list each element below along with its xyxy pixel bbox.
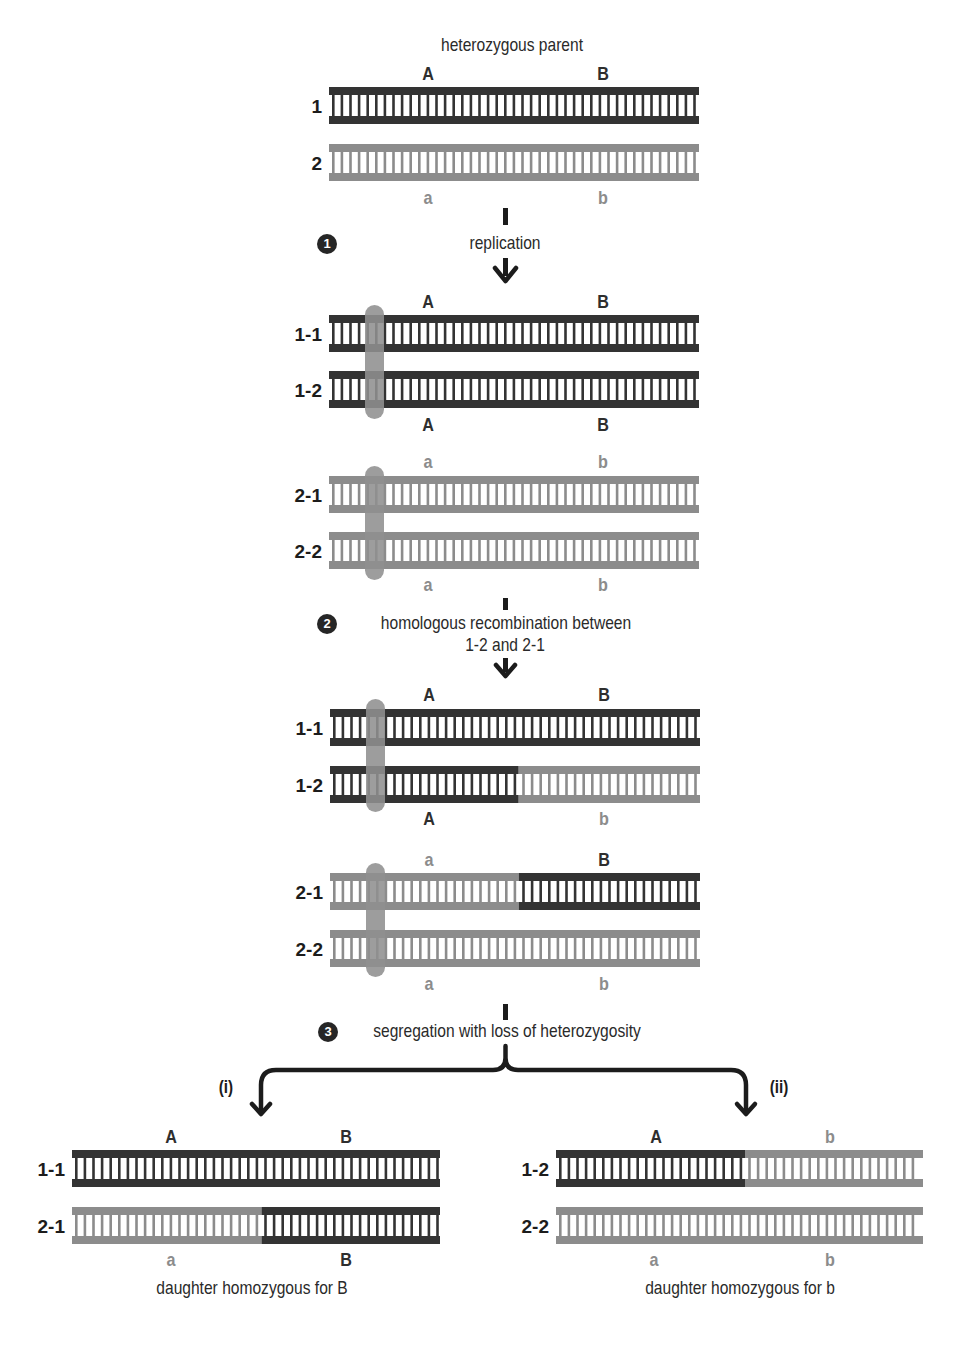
allele-label: B	[340, 1250, 352, 1269]
chromatid-label: 1	[311, 97, 322, 116]
allele-label: B	[598, 850, 610, 869]
daughter-left-title: daughter homozygous for B	[156, 1278, 347, 1297]
allele-label: A	[650, 1127, 662, 1146]
chromatid-dL-2-1	[72, 1207, 440, 1244]
chromatid-label: 2-2	[295, 542, 322, 561]
step-2-label-line1: homologous recombination between	[381, 613, 631, 632]
allele-label: a	[424, 188, 433, 207]
chromatid-rec-2-2	[330, 930, 700, 967]
allele-label: B	[597, 415, 609, 434]
chromatid-rep-2-1	[329, 476, 699, 513]
chromatid-label: 1-2	[295, 381, 322, 400]
chromatid-rep-2-2	[329, 532, 699, 569]
allele-label: a	[424, 452, 433, 471]
allele-label: B	[597, 292, 609, 311]
chromatid-rec-2-1	[330, 873, 700, 910]
step1-arrow-stem-top	[503, 208, 508, 225]
allele-label: a	[650, 1250, 659, 1269]
daughter-right-title: daughter homozygous for b	[645, 1278, 835, 1297]
process-arrows	[252, 208, 755, 1114]
cohesin-rings	[365, 305, 385, 977]
step-3-badge: 3	[318, 1022, 338, 1042]
chromatid-dR-2-2	[556, 1207, 923, 1244]
allele-label: A	[423, 685, 435, 704]
parent-title: heterozygous parent	[441, 35, 583, 54]
step-2-label-line2: 1-2 and 2-1	[465, 635, 545, 654]
allele-label: A	[422, 64, 434, 83]
allele-label: a	[425, 974, 434, 993]
step-1-label: replication	[469, 233, 540, 252]
chromatid-label: 2-1	[38, 1217, 65, 1236]
step-3-label: segregation with loss of heterozygosity	[373, 1021, 641, 1040]
cohesin-ring	[365, 305, 384, 419]
chromatid-dR-1-2	[556, 1150, 923, 1187]
step-1-badge: 1	[317, 234, 337, 254]
cohesin-ring	[366, 863, 385, 977]
step2-arrow-stem-top	[503, 598, 508, 610]
chromatid-label: 2-2	[296, 940, 323, 959]
allele-label: A	[422, 292, 434, 311]
chromatid-label: 2-1	[295, 486, 322, 505]
allele-label: B	[340, 1127, 352, 1146]
chromatid-label: 1-1	[296, 719, 323, 738]
allele-label: B	[597, 64, 609, 83]
chromatid-rep-1-1	[329, 315, 699, 352]
allele-label: a	[167, 1250, 176, 1269]
allele-label: b	[825, 1127, 835, 1146]
chromatid-label: 1-1	[38, 1160, 65, 1179]
allele-label: b	[598, 452, 608, 471]
chromatid-label: 2	[311, 154, 322, 173]
step-2-badge: 2	[317, 614, 337, 634]
brace-split-icon	[261, 1046, 746, 1112]
diagram-graphics	[0, 0, 962, 1351]
allele-label: b	[599, 809, 609, 828]
chromatid-label: 1-2	[296, 776, 323, 795]
chromatid-rep-1-2	[329, 371, 699, 408]
chromatid-label: 2-1	[296, 883, 323, 902]
step3-arrow-stem-top	[503, 1004, 508, 1020]
chromatid-label: 1-1	[295, 325, 322, 344]
allele-label: A	[422, 415, 434, 434]
allele-label: A	[423, 809, 435, 828]
allele-label: a	[425, 850, 434, 869]
cohesin-ring	[366, 699, 385, 812]
chromatid-dL-1-1	[72, 1150, 440, 1187]
branch-i-label: (i)	[219, 1078, 233, 1096]
branch-ii-label: (ii)	[770, 1078, 789, 1096]
allele-label: b	[825, 1250, 835, 1269]
allele-label: a	[424, 575, 433, 594]
step2-arrow-stem	[503, 658, 508, 672]
allele-label: B	[598, 685, 610, 704]
chromatid-rec-1-1	[330, 709, 700, 746]
allele-label: A	[165, 1127, 177, 1146]
chromatid-parent-1	[329, 87, 699, 124]
chromatid-rec-1-2	[330, 766, 700, 803]
chromatid-parent-2	[329, 144, 699, 181]
loh-diagram: heterozygous parent 1 replication 2 homo…	[0, 0, 962, 1351]
chromatid-label: 2-2	[522, 1217, 549, 1236]
chromatid-label: 1-2	[522, 1160, 549, 1179]
allele-label: b	[598, 188, 608, 207]
allele-label: b	[598, 575, 608, 594]
step1-arrow-stem	[503, 258, 508, 276]
allele-label: b	[599, 974, 609, 993]
cohesin-ring	[365, 466, 384, 580]
